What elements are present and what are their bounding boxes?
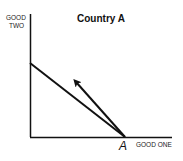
- chart-title: Country A: [77, 13, 125, 24]
- point-a-label: A: [119, 139, 127, 153]
- diagram: [0, 0, 183, 161]
- y-axis-label-line1: GOOD: [6, 14, 26, 21]
- y-axis-label-line2: TWO: [9, 22, 24, 29]
- arrow: [76, 82, 125, 137]
- x-axis-label: GOOD ONE: [136, 141, 172, 148]
- ppf-line: [30, 63, 125, 137]
